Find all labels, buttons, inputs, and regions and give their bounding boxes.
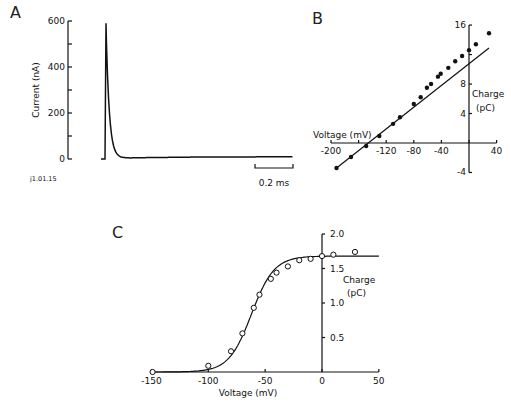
panel-c-y-tick-label: 1.0 [330, 298, 345, 308]
panel-b-data-point [419, 95, 423, 99]
panel-c-data-point [308, 256, 313, 261]
panel-b-x-tick-label: 40 [491, 146, 503, 156]
panel-a-y-tick-label: 200 [48, 108, 65, 118]
panel-c-data-point [228, 349, 233, 354]
panel-b-data-point [349, 155, 353, 159]
panel-label-c: C [112, 223, 123, 242]
panel-a-y-tick-label: 0 [59, 154, 65, 164]
panel-c-x-tick-label: -50 [258, 376, 273, 386]
panel-c-data-point [268, 276, 273, 281]
panel-c-y-axis-label-2: (pC) [347, 288, 366, 298]
panel-c-y-axis-label-1: Charge [343, 275, 376, 285]
panel-b-y-axis-label-2: (pC) [476, 103, 495, 113]
panel-c-y-tick-label: 1.5 [330, 264, 344, 274]
panel-b-data-point [377, 134, 381, 138]
panel-c-x-axis-label: Voltage (mV) [219, 388, 278, 398]
panel-a-current-trace [101, 23, 293, 159]
panel-c-y-tick-label: 2.0 [330, 229, 345, 239]
panel-c-data-point [352, 249, 357, 254]
panel-a-y-axis-label: Current (nA) [31, 62, 41, 118]
panel-a-y-tick-label: 400 [48, 62, 65, 72]
panel-b-data-point [364, 144, 368, 148]
panel-b-data-point [474, 42, 478, 46]
panel-c-data-point [319, 253, 324, 258]
panel-label-b: B [312, 9, 323, 28]
panel-c-data-point [240, 331, 245, 336]
panel-b-data-point [412, 102, 416, 106]
panel-c-data-point [257, 292, 262, 297]
panel-c-data-point [331, 252, 336, 257]
panel-c-plot: -150-100-500500.51.01.52.0 [141, 229, 385, 386]
panel-b-data-point [439, 72, 443, 76]
panel-b-x-tick-label: -80 [406, 146, 421, 156]
panel-c-x-tick-label: 50 [373, 376, 385, 386]
panel-a-scale-bar [255, 164, 293, 168]
panel-c-data-point [206, 363, 211, 368]
panel-a-record-id: j1.01.15 [29, 175, 57, 183]
panel-b-y-tick-label: 8 [460, 79, 466, 89]
panel-b-data-point [425, 86, 429, 90]
panel-a-scale-bar-label: 0.2 ms [259, 178, 290, 188]
panel-b-data-point [460, 54, 464, 58]
panel-c-x-tick-label: -150 [141, 376, 162, 386]
panel-b-data-point [429, 82, 433, 86]
panel-b-x-tick-label: -200 [321, 146, 342, 156]
panel-b-data-point [467, 48, 471, 52]
panel-b-data-point [334, 166, 338, 170]
panel-b-y-tick-label: -4 [457, 167, 466, 177]
panel-c-y-tick-label: 0.5 [330, 333, 344, 343]
panel-c-x-tick-label: 0 [319, 376, 325, 386]
figure: A B C Current (nA) j1.01.15 0.2 ms Volta… [0, 0, 511, 406]
panel-b-data-point [453, 59, 457, 63]
panel-a-plot: 0200400600 [48, 16, 293, 168]
panel-c-x-tick-label: -100 [198, 376, 219, 386]
panel-b-x-axis-label: Voltage (mV) [313, 130, 372, 140]
panel-b-y-tick-label: 4 [460, 109, 466, 119]
panel-c-data-point [285, 264, 290, 269]
panel-a-y-tick-label: 600 [48, 16, 65, 26]
panel-c-data-point [297, 258, 302, 263]
panel-b-x-tick-label: -40 [434, 146, 449, 156]
panel-b-data-point [487, 31, 491, 35]
panel-b-y-tick-label: 16 [455, 20, 467, 30]
panel-c-data-point [251, 305, 256, 310]
panel-b-data-point [391, 122, 395, 126]
panel-b-y-axis-label-1: Charge [472, 89, 505, 99]
panel-c-fit-curve [151, 256, 379, 372]
panel-b-x-tick-label: -120 [376, 146, 397, 156]
panel-c-data-point [274, 270, 279, 275]
panel-c-data-point [150, 369, 155, 374]
panel-b-data-point [398, 115, 402, 119]
panel-label-a: A [10, 3, 21, 22]
panel-b-data-point [446, 66, 450, 70]
